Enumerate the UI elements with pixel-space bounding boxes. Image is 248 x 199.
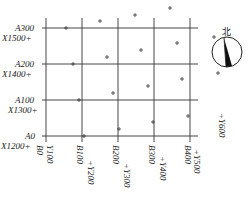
label-b0: B0: [35, 145, 45, 155]
label-a0: A0: [24, 131, 35, 141]
label-x1200: X1200+: [0, 141, 31, 151]
label-a300: A300: [14, 23, 34, 33]
b-axis-labels: B0 B100 B200 B300 B400: [35, 145, 193, 164]
label-y100: Y100: [45, 145, 55, 164]
a-grid-lines: [42, 28, 198, 136]
survey-grid-diagram: A300 A200 A100 A0 X1500+ X1400+ X1300+ X…: [0, 0, 248, 199]
label-b300: B300: [147, 145, 157, 164]
label-y300: +Y300: [122, 163, 132, 188]
label-b400: B400: [183, 145, 193, 164]
label-x1500: X1500+: [1, 33, 32, 43]
label-x1300: X1300+: [7, 105, 38, 115]
north-label: 北: [222, 27, 231, 37]
label-y200: +Y200: [86, 160, 96, 185]
label-b200: B200: [111, 145, 121, 164]
coordinate-crosses: [48, 6, 220, 138]
label-b100: B100: [75, 145, 85, 164]
label-x1400: X1400+: [1, 69, 32, 79]
label-y600: +Y600: [217, 113, 227, 138]
label-a200: A200: [14, 59, 34, 69]
north-compass-icon: 北: [212, 27, 242, 67]
label-y400: +Y400: [158, 156, 168, 181]
label-a100: A100: [14, 95, 34, 105]
y-axis-labels: Y100 +Y200 +Y300 +Y400 +Y500 +Y600: [45, 113, 227, 188]
label-y500: +Y500: [192, 149, 202, 174]
b-grid-lines: [46, 18, 190, 142]
